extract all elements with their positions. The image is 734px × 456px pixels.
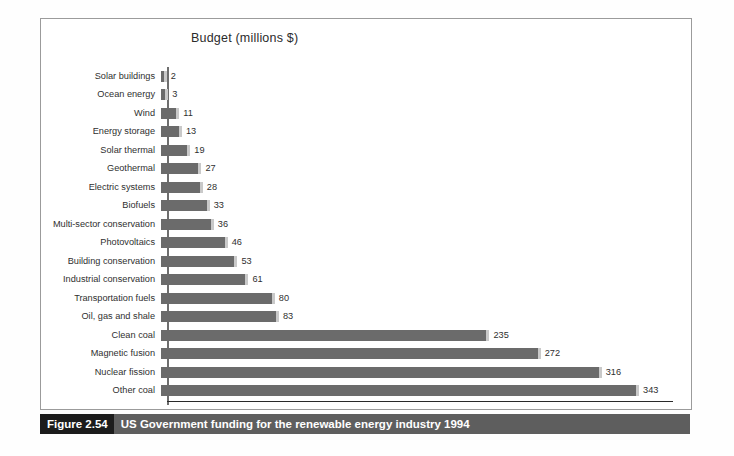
- bar-value-label: 272: [545, 349, 560, 358]
- bar-row: Solar buildings2: [41, 67, 693, 86]
- bar-value-label: 28: [207, 183, 217, 192]
- chart-plot-area: Solar buildings2Ocean energy3Wind11Energ…: [41, 57, 693, 405]
- bar-container: 46: [161, 234, 693, 253]
- bar-value-label: 2: [171, 72, 176, 81]
- bar-row: Clean coal235: [41, 326, 693, 345]
- bar: [161, 200, 210, 211]
- page-background: Budget (millions $) Solar buildings2Ocea…: [0, 0, 734, 456]
- bar-category-label: Building conservation: [41, 257, 161, 266]
- bar-category-label: Solar buildings: [41, 72, 161, 81]
- bar-container: 3: [161, 86, 693, 105]
- bar-category-label: Multi-sector conservation: [41, 220, 161, 229]
- value-axis-baseline: [167, 401, 673, 402]
- bar-value-label: 61: [252, 275, 262, 284]
- bar-row: Oil, gas and shale83: [41, 308, 693, 327]
- bar: [161, 348, 541, 359]
- bar-container: 11: [161, 104, 693, 123]
- bar-value-label: 46: [232, 238, 242, 247]
- bar-value-label: 36: [218, 220, 228, 229]
- bar-value-label: 80: [279, 294, 289, 303]
- bar-container: 83: [161, 308, 693, 327]
- bar-category-label: Transportation fuels: [41, 294, 161, 303]
- bar: [161, 145, 190, 156]
- bar-container: 2: [161, 67, 693, 86]
- bar-category-label: Clean coal: [41, 331, 161, 340]
- bar: [161, 293, 275, 304]
- bar-value-label: 19: [194, 146, 204, 155]
- bar-container: 36: [161, 215, 693, 234]
- bar-row: Wind11: [41, 104, 693, 123]
- bar-value-label: 83: [283, 312, 293, 321]
- bar-row: Nuclear fission316: [41, 363, 693, 382]
- bar-container: 316: [161, 363, 693, 382]
- bar-category-label: Industrial conservation: [41, 275, 161, 284]
- bar-row: Photovoltaics46: [41, 234, 693, 253]
- bar: [161, 163, 201, 174]
- bar-category-label: Biofuels: [41, 201, 161, 210]
- bar-row: Magnetic fusion272: [41, 345, 693, 364]
- bar-category-label: Ocean energy: [41, 90, 161, 99]
- bar: [161, 71, 167, 82]
- bar: [161, 126, 182, 137]
- bar-category-label: Wind: [41, 109, 161, 118]
- bar: [161, 108, 179, 119]
- bar-container: 28: [161, 178, 693, 197]
- bar-row: Biofuels33: [41, 197, 693, 216]
- bar-container: 272: [161, 345, 693, 364]
- bar: [161, 311, 279, 322]
- bar-container: 33: [161, 197, 693, 216]
- chart-axis-title: Budget (millions $): [191, 31, 298, 45]
- bar-row: Industrial conservation61: [41, 271, 693, 290]
- bar-value-label: 33: [214, 201, 224, 210]
- figure-frame: Budget (millions $) Solar buildings2Ocea…: [40, 18, 692, 410]
- bar-category-label: Solar thermal: [41, 146, 161, 155]
- bar: [161, 274, 248, 285]
- figure-caption-text: US Government funding for the renewable …: [114, 418, 470, 430]
- bar-container: 27: [161, 160, 693, 179]
- bar: [161, 385, 639, 396]
- bar-container: 53: [161, 252, 693, 271]
- bar: [161, 89, 168, 100]
- bar-container: 19: [161, 141, 693, 160]
- bar-value-label: 316: [606, 368, 621, 377]
- bar-row: Electric systems28: [41, 178, 693, 197]
- figure-caption-bar: Figure 2.54 US Government funding for th…: [40, 414, 690, 434]
- bar-value-label: 343: [643, 386, 658, 395]
- bar-category-label: Magnetic fusion: [41, 349, 161, 358]
- bar: [161, 219, 214, 230]
- bar-category-label: Electric systems: [41, 183, 161, 192]
- bar-rows: Solar buildings2Ocean energy3Wind11Energ…: [41, 67, 693, 400]
- bar-container: 343: [161, 382, 693, 401]
- bar-value-label: 235: [493, 331, 508, 340]
- bar-category-label: Photovoltaics: [41, 238, 161, 247]
- bar-container: 235: [161, 326, 693, 345]
- bar: [161, 367, 602, 378]
- bar-row: Ocean energy3: [41, 86, 693, 105]
- bar-category-label: Other coal: [41, 386, 161, 395]
- bar-container: 13: [161, 123, 693, 142]
- bar-row: Multi-sector conservation36: [41, 215, 693, 234]
- bar-row: Other coal343: [41, 382, 693, 401]
- bar-row: Solar thermal19: [41, 141, 693, 160]
- bar-category-label: Energy storage: [41, 127, 161, 136]
- bar-row: Building conservation53: [41, 252, 693, 271]
- bar-value-label: 3: [172, 90, 177, 99]
- bar-category-label: Geothermal: [41, 164, 161, 173]
- bar-row: Transportation fuels80: [41, 289, 693, 308]
- bar: [161, 182, 203, 193]
- bar-value-label: 13: [186, 127, 196, 136]
- bar-category-label: Oil, gas and shale: [41, 312, 161, 321]
- bar-value-label: 27: [205, 164, 215, 173]
- bar-value-label: 11: [183, 109, 193, 118]
- bar-container: 61: [161, 271, 693, 290]
- bar-row: Energy storage13: [41, 123, 693, 142]
- bar-value-label: 53: [241, 257, 251, 266]
- bar: [161, 256, 237, 267]
- figure-caption-number: Figure 2.54: [40, 414, 114, 434]
- bar: [161, 237, 228, 248]
- bar-container: 80: [161, 289, 693, 308]
- bar-row: Geothermal27: [41, 160, 693, 179]
- bar-category-label: Nuclear fission: [41, 368, 161, 377]
- bar: [161, 330, 489, 341]
